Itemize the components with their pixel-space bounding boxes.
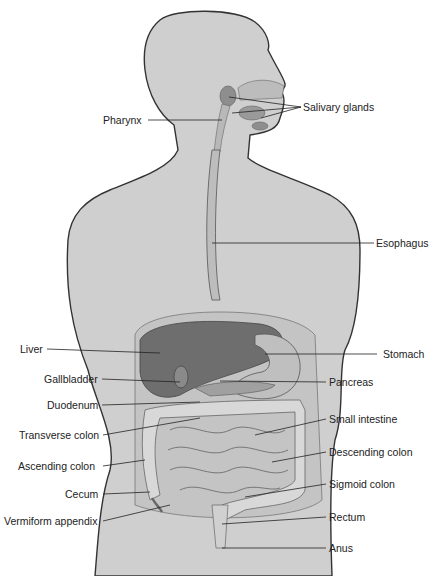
gallbladder-shape xyxy=(174,366,188,388)
label-vermiform-appendix: Vermiform appendix xyxy=(4,515,97,527)
label-cecum: Cecum xyxy=(65,488,98,500)
label-descending-colon: Descending colon xyxy=(329,446,412,458)
label-transverse-colon: Transverse colon xyxy=(19,429,99,441)
label-duodenum: Duodenum xyxy=(47,399,98,411)
label-salivary-glands: Salivary glands xyxy=(303,101,374,113)
label-sigmoid-colon: Sigmoid colon xyxy=(329,478,395,490)
label-anus: Anus xyxy=(329,542,353,554)
label-rectum: Rectum xyxy=(329,511,365,523)
sublingual-gland xyxy=(252,122,268,130)
digestive-system-diagram: Salivary glands Pharynx Esophagus Liver … xyxy=(0,0,435,576)
label-gallbladder: Gallbladder xyxy=(44,373,98,385)
label-esophagus: Esophagus xyxy=(376,237,429,249)
label-ascending-colon: Ascending colon xyxy=(18,460,95,472)
label-liver: Liver xyxy=(20,343,43,355)
label-stomach: Stomach xyxy=(383,348,424,360)
label-pharynx: Pharynx xyxy=(103,114,142,126)
parotid-gland xyxy=(220,86,236,106)
label-pancreas: Pancreas xyxy=(329,376,373,388)
label-small-intestine: Small intestine xyxy=(329,413,397,425)
